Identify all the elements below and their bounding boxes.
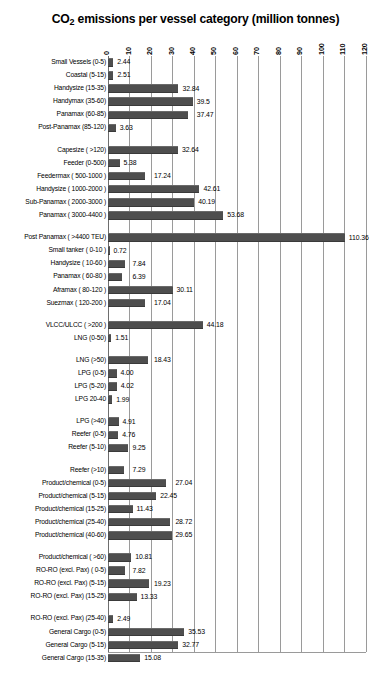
category-label: LPG (>40) [0,416,106,426]
bar-value-label: 7.29 [132,465,145,475]
x-tick-0: 0 [102,51,111,55]
bar-row: Handymax (35-60)39.5 [0,95,391,108]
x-tick-30: 30 [167,47,176,55]
bar-row: Reefer (>10)7.29 [0,464,391,477]
category-label: Panamax ( 60-80 ) [0,271,106,281]
bar-row: Post-Panamax (85-120)3.63 [0,121,391,134]
category-label: Panamax (60-85) [0,109,106,119]
bar-row: Handysize (15-35)32.84 [0,82,391,95]
group-separator [0,310,391,319]
chart-title-co: CO [52,12,70,26]
bar [108,369,117,377]
bar [108,641,178,649]
category-label: Post Panamax ( >4400 TEU) [0,232,106,242]
category-label: Product/chemical ( >60) [0,552,106,562]
bar [108,628,184,636]
bar-row: Handysize ( 10-60 )7.84 [0,257,391,270]
bar-value-label: 13.33 [141,592,158,602]
bar-value-label: 17.04 [154,298,171,308]
category-label: LPG (0-5) [0,368,106,378]
group-separator [0,542,391,551]
bar-value-label: 9.25 [132,443,145,453]
x-tick-60: 60 [231,47,240,55]
bar-row: Feedermax ( 500-1000 )17.24 [0,170,391,183]
bar [108,246,110,254]
bar [108,505,133,513]
bar [108,185,199,193]
bar-row: Panamax (60-85)37.47 [0,108,391,121]
bar-value-label: 5.38 [124,158,137,168]
bar [108,395,112,403]
bar-value-label: 0.72 [114,246,127,256]
chart-title-rest: emissions per vessel category (million t… [74,12,339,26]
bar-value-label: 4.02 [121,381,134,391]
bar-value-label: 44.18 [207,320,224,330]
bar-value-label: 4.76 [122,430,135,440]
bar-row: LPG (0-5)4.00 [0,367,391,380]
x-tick-40: 40 [188,47,197,55]
bar [108,566,125,574]
bar [108,286,173,294]
bar-value-label: 27.04 [175,478,192,488]
bar-rows: Small Vessels (0-5)2.44Coastal (5-15)2.5… [0,56,391,665]
bar-row: Panamax ( 60-80 )6.39 [0,270,391,283]
category-label: RO-RO (excl. Pax) (15-25) [0,591,106,601]
bar-row: General Cargo (0-5)35.53 [0,626,391,639]
bar-value-label: 28.72 [175,517,192,527]
bar [108,146,178,154]
bar [108,58,113,66]
category-label: General Cargo (15-35) [0,653,106,663]
bar-row: RO-RO (excl. Pax) (15-25)13.33 [0,590,391,603]
bar-row: Product/chemical (25-40)28.72 [0,516,391,529]
bar-value-label: 53.68 [227,210,244,220]
x-tick-90: 90 [295,47,304,55]
bar-value-label: 42.61 [203,184,220,194]
bar-value-label: 10.81 [135,552,152,562]
bar [108,97,193,105]
bar-row: LPG (5-20)4.02 [0,380,391,393]
category-label: LPG (5-20) [0,381,106,391]
category-label: Reefer (0-5) [0,429,106,439]
bar-row: Reefer (0-5)4.76 [0,428,391,441]
bar [108,492,156,500]
bar-row: General Cargo (15-35)15.08 [0,652,391,665]
x-tick-10: 10 [124,47,133,55]
bar-value-label: 35.53 [188,627,205,637]
figure-caption [0,668,391,677]
bar [108,260,125,268]
bar-row: Post Panamax ( >4400 TEU)110.36 [0,231,391,244]
category-label: Handysize (15-35) [0,83,106,93]
bar [108,593,137,601]
bar-row: Coastal (5-15)2.51 [0,69,391,82]
bar-value-label: 19.23 [154,579,171,589]
category-label: Product/chemical (25-40) [0,517,106,527]
bar-row: Aframax ( 80-120 )30.11 [0,284,391,297]
bar [108,531,172,539]
bar [108,71,113,79]
category-label: Capesize ( >120) [0,145,106,155]
chart-title-subscript: 2 [70,17,75,27]
x-tick-50: 50 [209,47,218,55]
bar [108,479,166,487]
bar-value-label: 22.45 [160,491,177,501]
bar-value-label: 29.65 [175,530,192,540]
bar-value-label: 30.11 [177,285,193,295]
category-label: VLCC/ULCC ( >200 ) [0,320,106,330]
bar-value-label: 11.43 [137,504,153,514]
bar-value-label: 18.43 [154,355,171,365]
category-label: Post-Panamax (85-120) [0,122,106,132]
bar [108,233,345,241]
bar-value-label: 3.63 [120,123,133,133]
category-label: Handysize ( 1000-2000 ) [0,184,106,194]
bar-row: RO-RO (excl. Pax) (5-15)19.23 [0,577,391,590]
bar [108,356,148,364]
x-tick-80: 80 [274,47,283,55]
bar-row: Panamax ( 3000-4400 )53.68 [0,209,391,222]
bar-value-label: 2.49 [117,614,130,624]
bar [108,417,119,425]
group-separator [0,135,391,144]
bar-row: Handysize ( 1000-2000 )42.61 [0,183,391,196]
category-label: RO-RO (excl. Pax) (5-15) [0,578,106,588]
bar [108,172,145,180]
bar-value-label: 7.84 [132,259,145,269]
